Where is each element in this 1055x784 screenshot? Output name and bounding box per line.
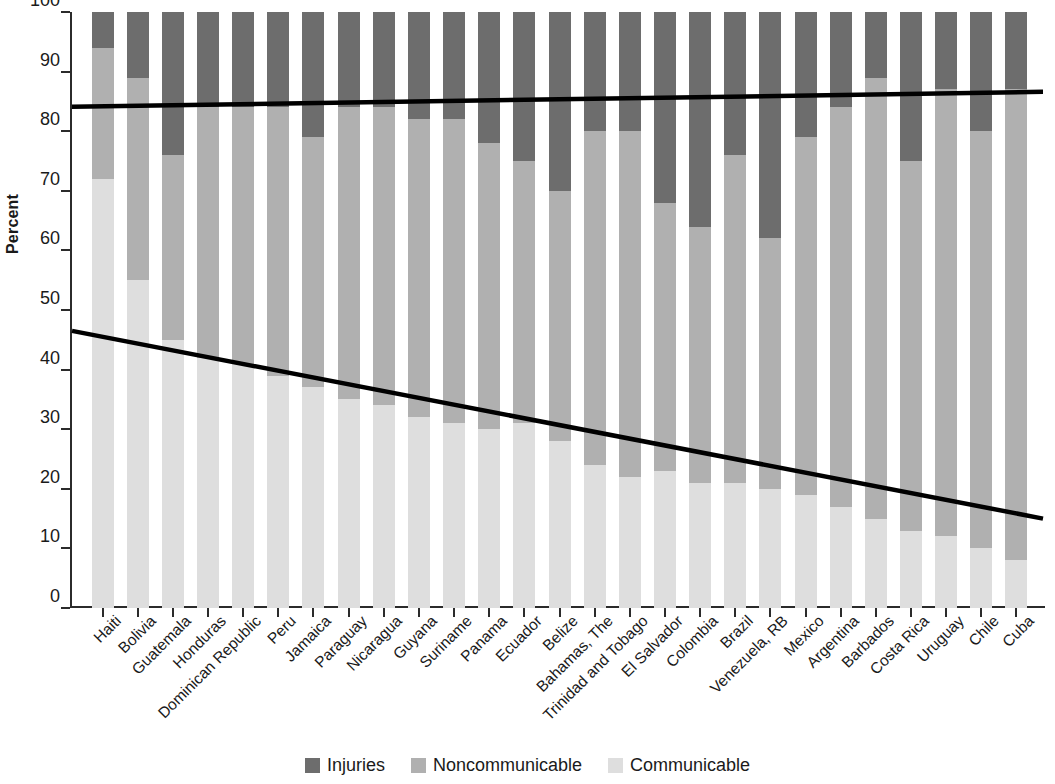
bar-segment-injuries[interactable] [654, 12, 676, 203]
bar-segment-communicable[interactable] [549, 441, 571, 608]
bar-segment-communicable[interactable] [408, 417, 430, 608]
bar-segment-communicable[interactable] [900, 531, 922, 608]
bar-segment-injuries[interactable] [865, 12, 887, 78]
bar-stack[interactable] [338, 12, 360, 608]
bar-segment-injuries[interactable] [619, 12, 641, 131]
bar-segment-injuries[interactable] [900, 12, 922, 161]
bar-segment-injuries[interactable] [549, 12, 571, 191]
bar-segment-communicable[interactable] [127, 280, 149, 608]
bar-segment-communicable[interactable] [865, 519, 887, 608]
bar-stack[interactable] [478, 12, 500, 608]
bar-segment-communicable[interactable] [162, 340, 184, 608]
bar-segment-communicable[interactable] [830, 507, 852, 608]
bar-stack[interactable] [689, 12, 711, 608]
bar-segment-injuries[interactable] [724, 12, 746, 155]
bar-stack[interactable] [900, 12, 922, 608]
bar-segment-communicable[interactable] [970, 548, 992, 608]
bar-segment-communicable[interactable] [689, 483, 711, 608]
bar-segment-noncommunicable[interactable] [549, 191, 571, 441]
bar-segment-noncommunicable[interactable] [162, 155, 184, 340]
bar-segment-injuries[interactable] [689, 12, 711, 227]
bar-segment-noncommunicable[interactable] [724, 155, 746, 483]
bar-segment-injuries[interactable] [443, 12, 465, 119]
bar-segment-noncommunicable[interactable] [232, 107, 254, 363]
bar-segment-communicable[interactable] [232, 364, 254, 608]
bar-segment-injuries[interactable] [92, 12, 114, 48]
bar-stack[interactable] [232, 12, 254, 608]
bar-stack[interactable] [373, 12, 395, 608]
bar-stack[interactable] [795, 12, 817, 608]
bar-segment-communicable[interactable] [619, 477, 641, 608]
bar-segment-injuries[interactable] [373, 12, 395, 107]
bar-segment-injuries[interactable] [935, 12, 957, 89]
bar-segment-noncommunicable[interactable] [654, 203, 676, 471]
bar-segment-communicable[interactable] [654, 471, 676, 608]
bar-segment-communicable[interactable] [92, 179, 114, 608]
bar-segment-noncommunicable[interactable] [338, 107, 360, 399]
bar-segment-communicable[interactable] [443, 423, 465, 608]
bar-segment-communicable[interactable] [759, 489, 781, 608]
bar-stack[interactable] [1005, 12, 1027, 608]
bar-segment-noncommunicable[interactable] [970, 131, 992, 548]
bar-segment-injuries[interactable] [1005, 12, 1027, 89]
bar-segment-noncommunicable[interactable] [302, 137, 324, 387]
bar-segment-injuries[interactable] [162, 12, 184, 155]
bar-segment-noncommunicable[interactable] [689, 227, 711, 483]
bar-stack[interactable] [549, 12, 571, 608]
bar-segment-communicable[interactable] [302, 387, 324, 608]
bar-segment-communicable[interactable] [267, 376, 289, 608]
bar-segment-noncommunicable[interactable] [92, 48, 114, 179]
bar-segment-noncommunicable[interactable] [373, 107, 395, 405]
bar-segment-injuries[interactable] [970, 12, 992, 131]
bar-segment-communicable[interactable] [935, 536, 957, 608]
bar-segment-injuries[interactable] [759, 12, 781, 238]
bar-segment-communicable[interactable] [724, 483, 746, 608]
bar-segment-injuries[interactable] [302, 12, 324, 137]
bar-stack[interactable] [724, 12, 746, 608]
bar-segment-noncommunicable[interactable] [795, 137, 817, 495]
bar-stack[interactable] [865, 12, 887, 608]
bar-segment-noncommunicable[interactable] [619, 131, 641, 477]
bar-stack[interactable] [127, 12, 149, 608]
bar-segment-noncommunicable[interactable] [408, 119, 430, 417]
legend-item[interactable]: Communicable [608, 755, 750, 775]
bar-stack[interactable] [935, 12, 957, 608]
bar-segment-communicable[interactable] [373, 405, 395, 608]
bar-stack[interactable] [584, 12, 606, 608]
bar-segment-noncommunicable[interactable] [197, 107, 219, 357]
bar-stack[interactable] [267, 12, 289, 608]
bar-segment-communicable[interactable] [1005, 560, 1027, 608]
bar-segment-injuries[interactable] [795, 12, 817, 137]
bar-segment-communicable[interactable] [795, 495, 817, 608]
bar-stack[interactable] [408, 12, 430, 608]
bar-segment-injuries[interactable] [513, 12, 535, 161]
bar-segment-noncommunicable[interactable] [865, 78, 887, 519]
bar-segment-communicable[interactable] [584, 465, 606, 608]
bar-segment-injuries[interactable] [267, 12, 289, 107]
bar-segment-noncommunicable[interactable] [127, 78, 149, 281]
bar-segment-noncommunicable[interactable] [759, 238, 781, 488]
bar-segment-noncommunicable[interactable] [478, 143, 500, 429]
bar-stack[interactable] [443, 12, 465, 608]
bar-segment-injuries[interactable] [408, 12, 430, 119]
bar-segment-noncommunicable[interactable] [830, 107, 852, 506]
bar-segment-communicable[interactable] [478, 429, 500, 608]
bar-segment-injuries[interactable] [197, 12, 219, 107]
bar-stack[interactable] [302, 12, 324, 608]
bar-stack[interactable] [92, 12, 114, 608]
bar-stack[interactable] [513, 12, 535, 608]
bar-segment-injuries[interactable] [232, 12, 254, 107]
bar-segment-communicable[interactable] [197, 358, 219, 608]
bar-segment-communicable[interactable] [513, 423, 535, 608]
bar-segment-injuries[interactable] [127, 12, 149, 78]
legend-item[interactable]: Noncommunicable [411, 755, 582, 775]
bar-segment-noncommunicable[interactable] [267, 107, 289, 375]
legend-item[interactable]: Injuries [305, 755, 385, 775]
bar-stack[interactable] [162, 12, 184, 608]
bar-segment-noncommunicable[interactable] [513, 161, 535, 423]
bar-segment-injuries[interactable] [584, 12, 606, 131]
bar-stack[interactable] [654, 12, 676, 608]
bar-segment-noncommunicable[interactable] [1005, 89, 1027, 560]
bar-segment-noncommunicable[interactable] [443, 119, 465, 423]
bar-segment-injuries[interactable] [338, 12, 360, 107]
